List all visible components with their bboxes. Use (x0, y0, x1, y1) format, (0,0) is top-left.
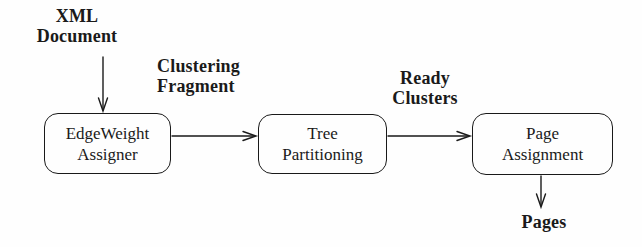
arrow-edgeweight-assigner-to-tree-partitioning (172, 132, 256, 141)
node-label-line: EdgeWeight (66, 123, 150, 144)
node-tree-partitioning: Tree Partitioning (258, 114, 387, 174)
arrow-page-assignment-to-pages (537, 176, 546, 207)
label-pages: Pages (496, 212, 592, 232)
label-xml-document: XML Document (29, 6, 125, 46)
node-label-line: Assignment (502, 144, 583, 165)
label-ready-clusters: Ready Clusters (377, 68, 473, 108)
node-label-line: Partitioning (282, 144, 362, 165)
flow-diagram: XML Document Clustering Fragment Ready C… (0, 0, 642, 247)
arrow-xml-document-to-edgeweight-assigner (99, 57, 108, 111)
label-line: Clustering (157, 56, 240, 76)
node-page-assignment: Page Assignment (472, 113, 613, 175)
label-line: Document (29, 26, 125, 46)
node-edgeweight-assigner: EdgeWeight Assigner (44, 113, 171, 174)
label-clustering-fragment: Clustering Fragment (157, 56, 240, 96)
label-line: Clusters (377, 88, 473, 108)
arrow-tree-partitioning-to-page-assignment (388, 132, 470, 141)
label-line: Ready (377, 68, 473, 88)
node-label-line: Page (526, 123, 559, 144)
node-label-line: Assigner (77, 144, 137, 165)
label-line: Fragment (157, 76, 240, 96)
label-line: XML (29, 6, 125, 26)
node-label-line: Tree (307, 123, 338, 144)
